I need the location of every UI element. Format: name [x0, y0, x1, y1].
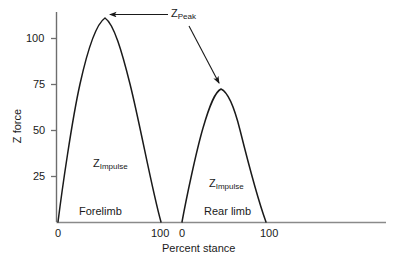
- z-impulse-symbol: Z: [93, 157, 100, 169]
- z-impulse-rearlimb-label: ZImpulse: [209, 178, 244, 189]
- x-tick-label-rearlimb-100: 100: [260, 228, 278, 239]
- z-impulse-forelimb-label: ZImpulse: [93, 158, 128, 169]
- forelimb-curve: [58, 18, 161, 222]
- rear-limb-curve: [182, 89, 266, 222]
- y-axis-title: Z force: [11, 96, 23, 156]
- x-tick-label-rearlimb-0: 0: [179, 228, 185, 239]
- z-impulse-subscript: Impulse: [216, 182, 244, 191]
- y-tick-label-100: 100: [26, 33, 44, 44]
- zpeak-arrow-rearlimb: [189, 26, 219, 83]
- z-peak-symbol: Z: [171, 7, 178, 19]
- z-peak-subscript: Peak: [178, 12, 196, 21]
- chart-figure: Z force 100 75 50 25 0 100 0 100 Percent…: [0, 0, 393, 263]
- y-tick-label-25: 25: [33, 171, 45, 182]
- x-axis-title: Percent stance: [162, 243, 235, 254]
- rear-limb-panel-label: Rear limb: [204, 206, 251, 217]
- plot-canvas: [0, 0, 393, 263]
- y-tick-label-50: 50: [33, 125, 45, 136]
- z-impulse-subscript: Impulse: [100, 162, 128, 171]
- z-impulse-symbol: Z: [209, 177, 216, 189]
- forelimb-panel-label: Forelimb: [79, 206, 122, 217]
- x-tick-label-forelimb-100: 100: [151, 228, 169, 239]
- z-peak-annotation: ZPeak: [171, 8, 196, 19]
- y-tick-label-75: 75: [33, 79, 45, 90]
- x-tick-label-forelimb-0: 0: [55, 228, 61, 239]
